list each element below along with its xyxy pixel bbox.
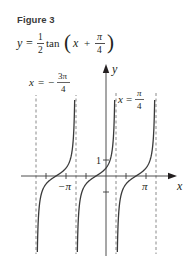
- equation-arg-num: π: [97, 31, 103, 42]
- tangent-curves: [37, 100, 154, 252]
- svg-text:−: −: [48, 76, 54, 88]
- svg-text:3π: 3π: [58, 71, 68, 81]
- y-tick-label: 1: [96, 155, 101, 166]
- equation-coef-den: 2: [38, 45, 43, 55]
- asymptote-label-left: x = − 3π 4: [25, 69, 77, 95]
- svg-text:4: 4: [137, 101, 142, 111]
- svg-text:x: x: [28, 76, 34, 88]
- right-paren: ): [107, 30, 114, 54]
- svg-text:x: x: [117, 93, 123, 105]
- x-axis-arrow-icon: [168, 173, 177, 179]
- equation-arg-var: x: [72, 36, 79, 50]
- x-tick-label: −π: [58, 180, 71, 192]
- svg-text:=: =: [38, 76, 44, 88]
- equation-arg-den: 4: [97, 45, 102, 55]
- y-axis-arrow-icon: [103, 64, 109, 73]
- equation-arg-op: +: [84, 37, 90, 49]
- chart-canvas: y = 1 2 tan ( x + π 4 ) −π π: [0, 0, 191, 257]
- svg-text:4: 4: [61, 84, 66, 94]
- equation-equals: =: [26, 36, 33, 50]
- equation-lhs: y: [16, 36, 23, 50]
- x-axis-label: x: [176, 179, 183, 193]
- x-tick-label: π: [142, 180, 148, 192]
- y-axis-label: y: [111, 62, 118, 76]
- svg-text:π: π: [137, 88, 142, 98]
- asymptote-label-right: x = π 4: [117, 88, 147, 112]
- equation-coef-num: 1: [38, 32, 43, 42]
- asymptotes: [36, 93, 156, 254]
- svg-text:=: =: [126, 93, 132, 105]
- left-paren: (: [64, 30, 71, 54]
- equation-func: tan: [46, 37, 60, 49]
- equation: y = 1 2 tan ( x + π 4 ): [16, 30, 114, 55]
